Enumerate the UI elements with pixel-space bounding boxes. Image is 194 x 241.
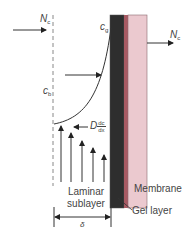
delta-label: δ: [80, 221, 84, 229]
flux-out-label: Nc: [170, 30, 180, 41]
gel-layer-band: [110, 15, 124, 208]
concentration-profile-curve: [54, 28, 111, 124]
laminar-sublayer-label: Laminarsublayer: [66, 186, 106, 210]
back-diffusion-label: Ddcdx: [90, 120, 106, 133]
membrane-label: Membrane: [134, 184, 182, 194]
gel-layer-label: Gel layer: [132, 206, 172, 216]
flux-in-label: Nc: [40, 14, 50, 25]
membrane-band: [128, 15, 147, 208]
gel-concentration-label: cg: [100, 22, 108, 33]
bulk-concentration-label: cb: [43, 86, 51, 97]
membrane-skin-strip: [124, 15, 128, 208]
